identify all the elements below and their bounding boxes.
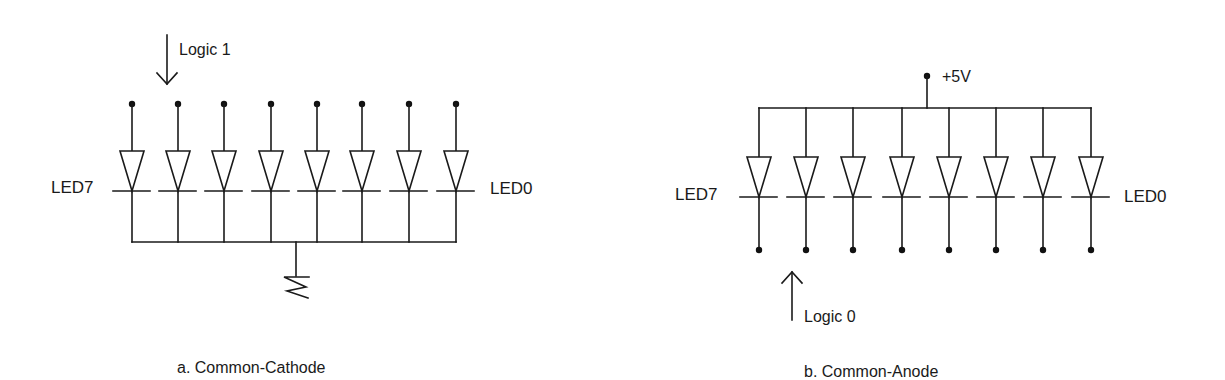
supply-voltage-label: +5V [942,68,971,85]
led-diode-icon [1072,157,1109,197]
common-anode-circuit: +5V LED7 LED0 Logic 0 b. Common-Anode [675,68,1167,380]
led-diode-icon [343,151,380,191]
led7-label: LED7 [675,185,718,204]
led-diode-icon [883,157,920,197]
logic-0-label: Logic 0 [804,308,856,325]
led-diode-icon [1024,157,1061,197]
led-diode-icon [437,151,474,191]
led-diode-icon [159,151,196,191]
input-terminal [946,247,952,253]
logic-1-label: Logic 1 [179,41,231,58]
led-circuits-diagram: Logic 1 LED7 LED0 a. Common-Cathode +5V … [0,0,1225,380]
led-diode-icon [252,151,289,191]
ground-symbol-icon [284,242,309,298]
caption-common-cathode: a. Common-Cathode [177,359,326,376]
led-diode-icon [740,157,777,197]
input-terminal [803,247,809,253]
logic-0-arrow-icon [782,272,802,320]
led-diode-icon [977,157,1014,197]
led0-label: LED0 [1124,187,1167,206]
led-diode-icon [113,151,150,191]
logic-1-arrow-icon [157,35,177,84]
input-terminal [993,247,999,253]
led7-label: LED7 [51,178,94,197]
led-array [113,101,474,242]
led-diode-icon [787,157,824,197]
led-array [740,108,1109,253]
common-cathode-circuit: Logic 1 LED7 LED0 a. Common-Cathode [51,35,533,376]
input-terminal [1088,247,1094,253]
led0-label: LED0 [490,179,533,198]
input-terminal [1040,247,1046,253]
led-diode-icon [390,151,427,191]
input-terminal [899,247,905,253]
caption-common-anode: b. Common-Anode [804,363,938,380]
led-diode-icon [930,157,967,197]
input-terminal [756,247,762,253]
led-diode-icon [834,157,871,197]
input-terminal [850,247,856,253]
led-diode-icon [205,151,242,191]
led-diode-icon [298,151,335,191]
